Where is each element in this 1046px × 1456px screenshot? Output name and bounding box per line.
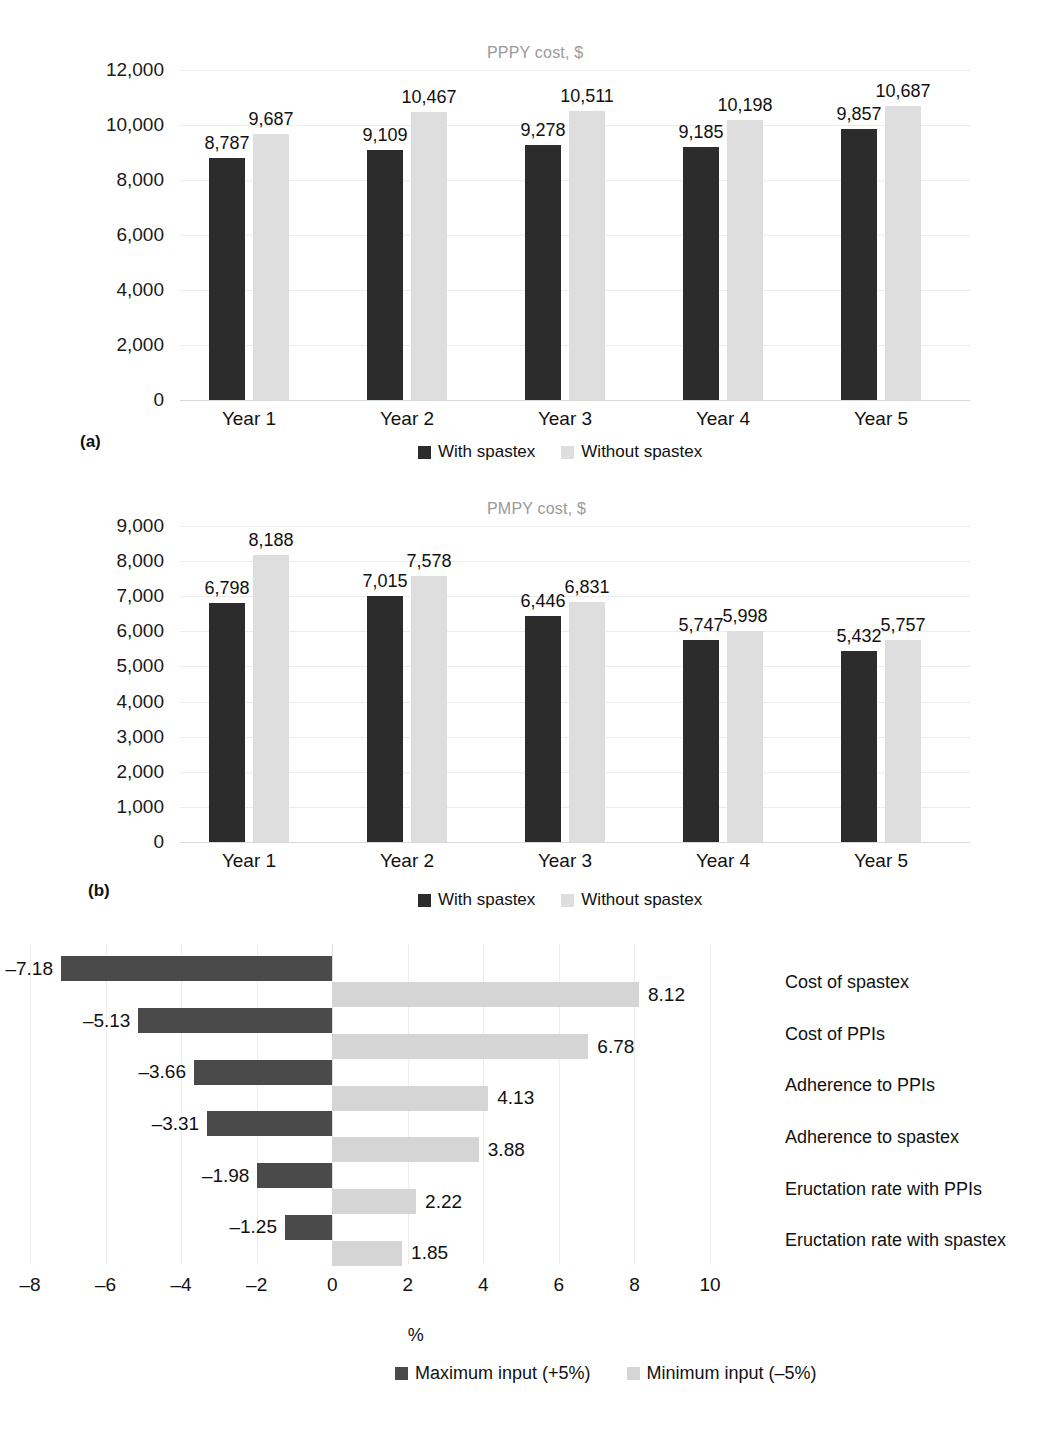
panel-b-pmpy-cost: PMPY cost, $ (b) 01,0002,0003,0004,0005,… xyxy=(0,490,1046,930)
tornado-value-label-positive: 6.78 xyxy=(597,1036,634,1058)
legend-swatch-icon-dark xyxy=(418,446,431,459)
x-axis-tick-label: 4 xyxy=(478,1274,489,1296)
bar xyxy=(841,129,877,400)
panel-a-pppy-cost: PPPY cost, $ (a) 02,0004,0006,0008,00010… xyxy=(0,0,1046,470)
category-label: Year 4 xyxy=(696,408,750,430)
x-axis-tick-label: 2 xyxy=(402,1274,413,1296)
tornado-bar-positive xyxy=(332,982,639,1007)
bar xyxy=(683,147,719,400)
category-label: Year 1 xyxy=(222,850,276,872)
x-axis-tick-label: 10 xyxy=(699,1274,720,1296)
y-axis-tick-label: 4,000 xyxy=(116,279,164,301)
legend-label-minimum-input: Minimum input (–5%) xyxy=(647,1363,817,1384)
tornado-value-label-positive: 8.12 xyxy=(648,984,685,1006)
tornado-value-label-positive: 2.22 xyxy=(425,1191,462,1213)
bar xyxy=(411,576,447,842)
bar-value-label: 9,857 xyxy=(836,104,881,125)
tornado-parameter-label: Eructation rate with PPIs xyxy=(785,1178,982,1199)
bar xyxy=(411,112,447,400)
gridline xyxy=(180,561,970,562)
bar-value-label: 5,747 xyxy=(678,615,723,636)
bar-value-label: 10,467 xyxy=(401,87,456,108)
figure-root: PPPY cost, $ (a) 02,0004,0006,0008,00010… xyxy=(0,0,1046,1456)
y-axis-tick-label: 0 xyxy=(153,831,164,853)
y-axis-tick-label: 2,000 xyxy=(116,334,164,356)
bar xyxy=(885,640,921,842)
y-axis-tick-label: 0 xyxy=(153,389,164,411)
bar-value-label: 5,757 xyxy=(880,615,925,636)
bar-value-label: 6,831 xyxy=(564,577,609,598)
tornado-bar-negative xyxy=(138,1008,332,1033)
panel-a-title: PPPY cost, $ xyxy=(487,44,583,62)
x-axis-tick-label: –4 xyxy=(171,1274,192,1296)
tornado-value-label-positive: 3.88 xyxy=(488,1139,525,1161)
tornado-value-label-negative: –5.13 xyxy=(0,1010,130,1032)
bar xyxy=(209,603,245,842)
gridline xyxy=(180,526,970,527)
legend-item-without-spastex: Without spastex xyxy=(561,890,702,910)
panel-c-plot-area: –8–6–4–20246810–7.188.12Cost of spastex–… xyxy=(0,944,740,1306)
panel-a-legend: With spastex Without spastex xyxy=(418,442,702,462)
bar-value-label: 8,787 xyxy=(204,133,249,154)
legend-item-without-spastex: Without spastex xyxy=(561,442,702,462)
bar xyxy=(253,134,289,400)
x-axis-tick-label: –2 xyxy=(246,1274,267,1296)
panel-c-tornado-sensitivity: ) –8–6–4–20246810–7.188.12Cost of spaste… xyxy=(0,938,1046,1456)
category-label: Year 3 xyxy=(538,408,592,430)
bar xyxy=(525,145,561,400)
category-label: Year 3 xyxy=(538,850,592,872)
x-axis-tick-label: 6 xyxy=(554,1274,565,1296)
legend-label-without-spastex: Without spastex xyxy=(581,890,702,910)
bar xyxy=(525,616,561,842)
tornado-bar-negative xyxy=(257,1163,332,1188)
panel-a-tag: (a) xyxy=(80,432,101,452)
tornado-value-label-positive: 4.13 xyxy=(497,1087,534,1109)
tornado-bar-positive xyxy=(332,1241,402,1266)
tornado-bar-negative xyxy=(207,1111,332,1136)
tornado-bar-positive xyxy=(332,1189,416,1214)
category-label: Year 2 xyxy=(380,850,434,872)
bar-value-label: 5,998 xyxy=(722,606,767,627)
x-axis-tick-label: 0 xyxy=(327,1274,338,1296)
panel-a-plot-area: 02,0004,0006,0008,00010,00012,0008,7879,… xyxy=(180,70,970,400)
legend-swatch-icon-dark xyxy=(418,894,431,907)
tornado-bar-negative xyxy=(61,956,332,981)
bar xyxy=(885,106,921,400)
panel-b-plot-area: 01,0002,0003,0004,0005,0006,0007,0008,00… xyxy=(180,526,970,842)
legend-swatch-icon-min xyxy=(627,1367,640,1380)
legend-item-minimum-input: Minimum input (–5%) xyxy=(627,1363,817,1384)
category-label: Year 4 xyxy=(696,850,750,872)
y-axis-tick-label: 6,000 xyxy=(116,620,164,642)
panel-b-tag: (b) xyxy=(88,881,110,901)
y-axis-tick-label: 10,000 xyxy=(106,114,164,136)
tornado-value-label-positive: 1.85 xyxy=(411,1242,448,1264)
gridline xyxy=(180,400,970,401)
bar-value-label: 8,188 xyxy=(248,530,293,551)
bar-value-label: 7,578 xyxy=(406,551,451,572)
y-axis-tick-label: 6,000 xyxy=(116,224,164,246)
y-axis-tick-label: 9,000 xyxy=(116,515,164,537)
legend-swatch-icon-light xyxy=(561,446,574,459)
gridline xyxy=(180,70,970,71)
tornado-value-label-negative: –1.98 xyxy=(0,1165,249,1187)
bar xyxy=(569,111,605,400)
tornado-parameter-label: Adherence to PPIs xyxy=(785,1075,935,1096)
panel-b-title: PMPY cost, $ xyxy=(487,500,586,518)
bar-value-label: 6,798 xyxy=(204,578,249,599)
bar xyxy=(727,631,763,842)
category-label: Year 5 xyxy=(854,850,908,872)
bar xyxy=(253,555,289,842)
bar-value-label: 9,687 xyxy=(248,109,293,130)
bar-value-label: 9,185 xyxy=(678,122,723,143)
x-axis-tick-label: 8 xyxy=(629,1274,640,1296)
legend-label-without-spastex: Without spastex xyxy=(581,442,702,462)
y-axis-tick-label: 1,000 xyxy=(116,796,164,818)
bar xyxy=(683,640,719,842)
y-axis-tick-label: 7,000 xyxy=(116,585,164,607)
tornado-bar-positive xyxy=(332,1034,588,1059)
legend-label-with-spastex: With spastex xyxy=(438,890,535,910)
bar xyxy=(569,602,605,842)
tornado-bar-positive xyxy=(332,1086,488,1111)
y-axis-tick-label: 12,000 xyxy=(106,59,164,81)
legend-item-with-spastex: With spastex xyxy=(418,890,535,910)
